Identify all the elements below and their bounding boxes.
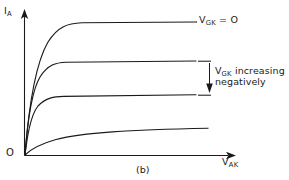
trend-annotation-line1-tail: increasing (232, 65, 285, 76)
top-curve-annotation: VGK = O (199, 15, 238, 25)
y-axis-label: IA (4, 6, 12, 16)
y-axis-label-subscript: A (7, 10, 12, 18)
thyristor-characteristic-figure: IA VAK O VGK = O VGK increasingnegativel… (0, 0, 289, 180)
origin-label: O (6, 148, 14, 159)
top-curve-annotation-main: V (199, 14, 206, 25)
figure-caption: (b) (136, 165, 149, 175)
x-axis-label-main: V (222, 156, 229, 167)
top-curve-annotation-tail: = O (216, 14, 238, 25)
trend-annotation-subscript: GK (222, 70, 232, 78)
curve-third (25, 95, 196, 155)
x-axis-label: VAK (222, 157, 238, 167)
curve-vgk-zero (25, 22, 196, 155)
x-axis-label-subscript: AK (229, 161, 239, 169)
trend-annotation: VGK increasingnegatively (215, 66, 285, 87)
trend-arrow-head-icon (206, 84, 213, 94)
curve-fourth (25, 128, 208, 155)
plot-canvas (0, 0, 289, 180)
trend-annotation-main: V (215, 65, 222, 76)
top-curve-annotation-subscript: GK (206, 19, 216, 27)
trend-annotation-line2: negatively (215, 77, 285, 87)
